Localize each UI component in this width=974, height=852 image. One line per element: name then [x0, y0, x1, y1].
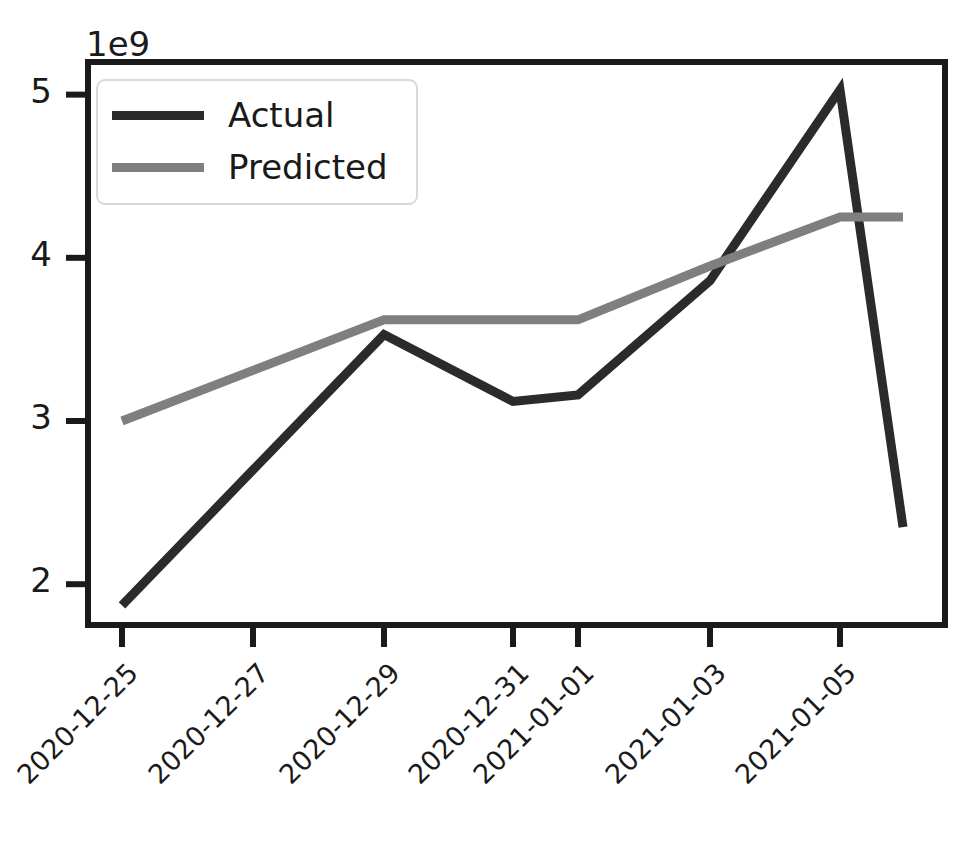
- y-tick-label: 3: [8, 397, 52, 437]
- y-axis-ticks: [66, 95, 88, 585]
- y-tick-label: 2: [8, 560, 52, 600]
- legend-item-predicted: Predicted: [112, 147, 388, 187]
- legend-swatch-predicted: [112, 163, 204, 172]
- chart-legend[interactable]: Actual Predicted: [96, 79, 418, 205]
- legend-label-predicted: Predicted: [228, 150, 388, 184]
- x-axis-ticks: [122, 625, 840, 647]
- legend-swatch-actual: [112, 111, 204, 120]
- chart-figure: 1e9 5432 2020-12-252020-12-272020-12-292…: [0, 0, 974, 852]
- y-tick-label: 4: [8, 234, 52, 274]
- series-line-predicted: [122, 217, 903, 421]
- y-tick-label: 5: [8, 71, 52, 111]
- y-axis-offset-label: 1e9: [86, 24, 150, 64]
- legend-item-actual: Actual: [112, 95, 335, 135]
- legend-label-actual: Actual: [228, 98, 335, 132]
